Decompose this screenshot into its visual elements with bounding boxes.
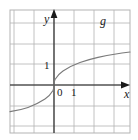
y-axis-tick-label-one: 1	[44, 59, 50, 71]
axes	[10, 14, 124, 133]
graph-svg: y x 0 1 1 g	[0, 0, 138, 140]
curve-label-g: g	[100, 14, 106, 28]
plot-frame	[10, 10, 130, 133]
y-axis-label: y	[43, 12, 50, 26]
x-axis-tick-label-one: 1	[71, 86, 77, 98]
origin-label: 0	[57, 86, 63, 98]
grid-lines	[10, 10, 130, 133]
curve-g	[10, 52, 130, 112]
graph-figure: y x 0 1 1 g	[0, 0, 138, 140]
x-axis-label: x	[123, 87, 130, 101]
